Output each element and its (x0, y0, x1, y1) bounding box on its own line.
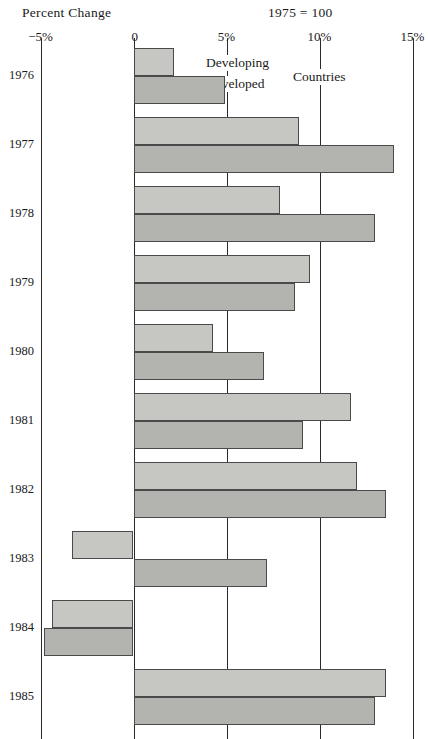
bar-1983-developed (134, 559, 268, 587)
year-label-1985: 1985 (0, 689, 34, 704)
axis-line-4 (413, 38, 414, 739)
bar-1979-developing (134, 255, 311, 283)
axis-line-3 (320, 38, 321, 739)
legend-item-developing: Developing (204, 55, 271, 71)
bar-1984-developed (44, 628, 133, 656)
bar-1979-developed (134, 283, 296, 311)
bar-1978-developed (134, 214, 376, 242)
year-label-1977: 1977 (0, 137, 34, 152)
year-label-1979: 1979 (0, 275, 34, 290)
bar-1981-developing (134, 393, 352, 421)
year-label-1983: 1983 (0, 551, 34, 566)
year-label-1981: 1981 (0, 413, 34, 428)
axis-line-0 (41, 38, 42, 739)
bar-1983-developing (72, 531, 133, 559)
bar-1980-developing (134, 324, 214, 352)
bar-1982-developing (134, 462, 357, 490)
page-title: Percent Change (22, 5, 111, 21)
bar-1980-developed (134, 352, 264, 380)
year-label-1984: 1984 (0, 620, 34, 635)
bar-1978-developing (134, 186, 281, 214)
year-label-1978: 1978 (0, 206, 34, 221)
bar-1984-developing (52, 600, 134, 628)
bar-1976-developing (134, 48, 175, 76)
bar-1977-developed (134, 145, 394, 173)
year-label-1976: 1976 (0, 68, 34, 83)
bar-1985-developed (134, 697, 376, 725)
x-tick-label-1: 0 (132, 29, 139, 45)
bar-1982-developed (134, 490, 387, 518)
year-label-1980: 1980 (0, 344, 34, 359)
bar-1976-developed (134, 76, 225, 104)
bar-1977-developing (134, 117, 300, 145)
bar-1981-developed (134, 421, 303, 449)
index-base-label: 1975 = 100 (268, 5, 333, 21)
year-label-1982: 1982 (0, 482, 34, 497)
bar-1985-developing (134, 669, 387, 697)
legend-item-countries: Countries (291, 69, 348, 85)
